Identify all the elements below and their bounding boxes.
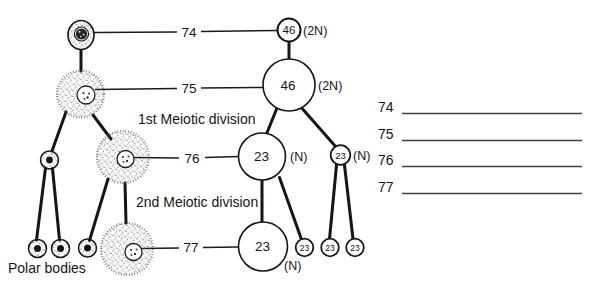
chromatin-speck [83, 34, 85, 36]
nucleus-dot [128, 156, 130, 158]
leader-75-left [95, 89, 177, 90]
leader-74-right [201, 31, 278, 32]
worksheet-page: 46 46 23 23 23 23 23 23 (2N) (2N) (N) (N… [0, 0, 606, 289]
ovum-cell [101, 223, 153, 275]
secondary-oocyte-cell [97, 131, 149, 183]
polar-body-nucleus [34, 245, 41, 252]
polar-body-2 [29, 240, 47, 258]
ploidy-2n-top: (2N) [303, 24, 327, 38]
ploidy-n-23-large2: (N) [284, 259, 301, 273]
line-polar1-to-polar3 [53, 169, 60, 241]
secondary-oocyte-nucleus [117, 151, 134, 168]
polar-body-4 [79, 239, 97, 257]
first-meiotic-division-label: 1st Meiotic division [138, 111, 256, 127]
line-23small1-to-23small4 [345, 165, 354, 239]
chromosome-count-23-small2: 23 [300, 243, 310, 253]
line-23small1-to-23small3 [330, 165, 337, 239]
answer-row-76: 76 [378, 152, 582, 168]
leader-74-left [94, 32, 177, 33]
chromosome-count-23-large2: 23 [255, 239, 270, 254]
nucleus-dot [82, 92, 84, 94]
chromatin-speck [79, 31, 81, 33]
pointer-label-74: 74 [181, 25, 197, 40]
pointer-label-77: 77 [183, 240, 198, 255]
answer-blank-list: 74 75 76 77 [378, 99, 582, 195]
answer-number-75: 75 [378, 126, 394, 142]
line-polar1-to-polar2 [37, 168, 46, 240]
chromosome-circles [239, 19, 364, 272]
ploidy-n-23-large1: (N) [290, 150, 307, 164]
line-secondary-to-polar4 [90, 179, 109, 241]
polar-body-1 [41, 151, 59, 169]
nucleus-dot [88, 93, 90, 95]
answer-number-77: 77 [378, 179, 394, 195]
line-46large-to-23small1 [300, 106, 336, 147]
leader-76-right [205, 157, 239, 158]
polar-bodies-label: Polar bodies [8, 260, 86, 276]
leader-77-right [203, 247, 238, 248]
primary-oocyte-cell [57, 71, 104, 118]
answer-number-76: 76 [378, 152, 394, 168]
line-primary-to-polar1 [52, 112, 66, 151]
polar-body-3 [52, 240, 70, 258]
line-primary-to-secondary [93, 115, 111, 139]
nucleus-dot [84, 98, 86, 100]
answer-row-77: 77 [378, 179, 582, 195]
line-46large-to-23large1 [267, 108, 278, 134]
chromosome-count-46-large: 46 [280, 78, 295, 93]
nucleus-dot [130, 249, 132, 251]
oogenesis-diagram: 46 46 23 23 23 23 23 23 (2N) (2N) (N) (N… [0, 0, 606, 289]
ploidy-2n-large: (2N) [318, 79, 342, 93]
chromosome-count-46-small: 46 [283, 24, 296, 36]
nucleus-dot [136, 249, 138, 251]
chromosome-count-23-large1: 23 [254, 149, 269, 164]
nucleus-dot [131, 254, 133, 256]
line-secondary-to-ovum [125, 183, 126, 223]
pointer-label-76: 76 [184, 151, 199, 166]
oogonium-chromatin [76, 28, 87, 39]
ovum-nucleus [125, 244, 142, 261]
line-23large1-to-23small2 [280, 178, 302, 240]
answer-row-75: 75 [378, 126, 582, 142]
chromosome-count-23-small4: 23 [350, 243, 360, 253]
ploidy-n-23-small1: (N) [353, 149, 370, 163]
answer-number-74: 74 [378, 99, 394, 115]
primary-oocyte-nucleus [77, 86, 95, 104]
polar-body-nucleus [57, 245, 64, 252]
nucleus-dot [126, 160, 128, 162]
nucleus-dot [123, 161, 125, 163]
chromosome-count-23-small1: 23 [335, 150, 346, 161]
answer-row-74: 74 [378, 99, 582, 115]
nucleus-dot [86, 96, 88, 98]
leader-75-right [201, 88, 263, 89]
chromosome-count-23-small3: 23 [325, 243, 335, 253]
chromatin-speck [80, 36, 82, 38]
nucleus-dot [134, 253, 136, 255]
polar-body-nucleus [84, 245, 91, 252]
pointer-label-75: 75 [181, 81, 196, 96]
oogonium-cell [68, 21, 94, 50]
nucleus-dot [122, 156, 124, 158]
polar-body-nucleus [46, 157, 53, 164]
second-meiotic-division-label: 2nd Meiotic division [136, 194, 258, 210]
